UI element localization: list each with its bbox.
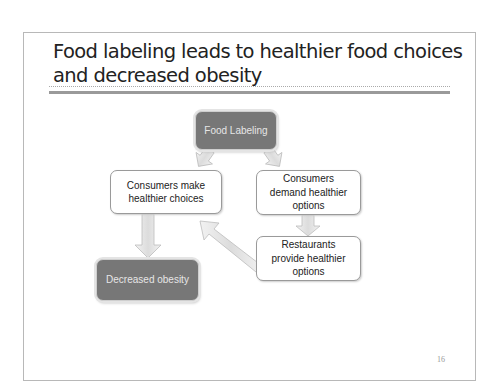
node-consumers-make: Consumers make healthier choices xyxy=(110,170,222,214)
node-decreased-obesity: Decreased obesity xyxy=(96,259,199,301)
node-consumers-demand: Consumers demand healthier options xyxy=(256,170,361,215)
node-label: Restaurants provide healthier options xyxy=(265,238,353,279)
node-label: Decreased obesity xyxy=(106,273,189,287)
arrow-icon xyxy=(296,215,320,236)
diagram-arrows xyxy=(0,0,502,391)
node-label: Food Labeling xyxy=(204,124,267,138)
node-food-labeling: Food Labeling xyxy=(195,111,277,150)
node-restaurants-provide: Restaurants provide healthier options xyxy=(256,236,361,281)
page-number: 16 xyxy=(437,355,445,364)
arrow-icon xyxy=(200,221,262,272)
node-label: Consumers make healthier choices xyxy=(121,179,211,206)
node-label: Consumers demand healthier options xyxy=(265,172,353,213)
arrow-icon xyxy=(135,214,161,258)
